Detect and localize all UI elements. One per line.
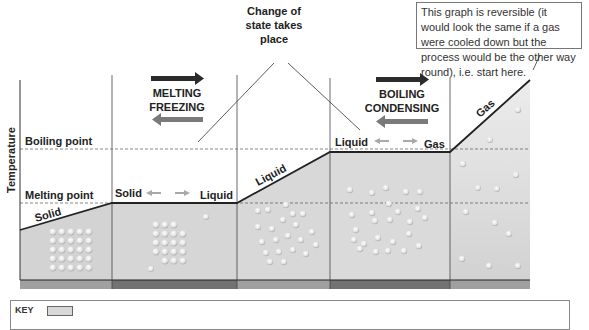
boiling-point-label: Boiling point bbox=[25, 135, 93, 147]
freezing-label: FREEZING bbox=[149, 101, 205, 113]
svg-text:place: place bbox=[260, 33, 288, 45]
condensing-arrow bbox=[376, 115, 428, 128]
svg-text:state takes: state takes bbox=[246, 19, 303, 31]
freezing-arrow bbox=[152, 113, 203, 126]
segment-liquid-gas-right: Gas bbox=[424, 138, 445, 150]
liquid-gas-arrows bbox=[374, 138, 418, 144]
melting-label: MELTING bbox=[153, 87, 202, 99]
melting-arrow bbox=[151, 72, 204, 85]
change-of-state-callout: Change of state takes place bbox=[198, 5, 360, 142]
svg-text:Change of: Change of bbox=[247, 5, 301, 17]
key-box: KEY bbox=[10, 300, 570, 330]
base-strip bbox=[20, 280, 530, 289]
reversible-note: This graph is reversible (it would look … bbox=[416, 2, 582, 49]
key-label: KEY bbox=[15, 305, 34, 315]
segment-solid-liquid-left: Solid bbox=[115, 187, 142, 199]
key-swatch bbox=[47, 306, 73, 316]
melting-point-label: Melting point bbox=[25, 189, 94, 201]
segment-solid-liquid-right: Liquid bbox=[200, 189, 233, 201]
boiling-label: BOILING bbox=[379, 88, 425, 100]
shaded-region bbox=[20, 80, 530, 280]
segment-liquid-gas-left: Liquid bbox=[335, 136, 368, 148]
condensing-label: CONDENSING bbox=[365, 102, 440, 114]
y-axis-label: Temperature bbox=[5, 127, 17, 193]
solid-liquid-arrows bbox=[146, 190, 190, 196]
